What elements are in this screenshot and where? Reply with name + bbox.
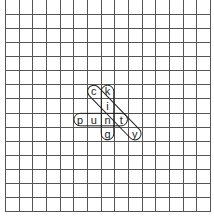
grid-letter: k bbox=[105, 85, 111, 97]
grid-letter: g bbox=[104, 128, 110, 140]
word-search-board: ckipuntgy bbox=[0, 0, 214, 217]
grid-letter: y bbox=[132, 128, 138, 140]
grid-letter: t bbox=[120, 114, 123, 126]
grid-letter: u bbox=[91, 114, 97, 126]
grid-letter: i bbox=[106, 100, 108, 112]
grid-letter: p bbox=[77, 114, 83, 126]
grid-letter: c bbox=[91, 85, 97, 97]
grid-letter: n bbox=[104, 114, 110, 126]
